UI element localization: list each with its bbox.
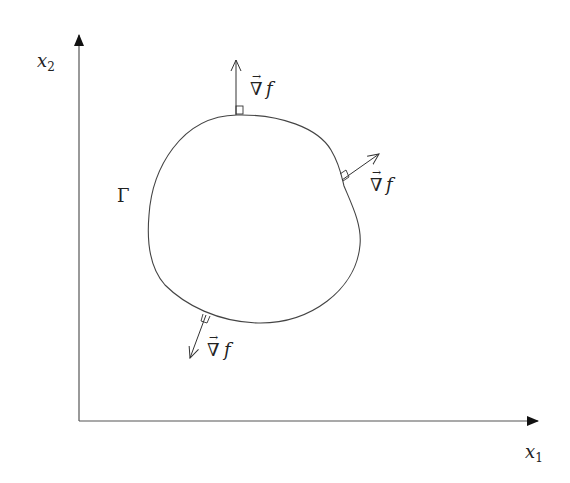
x-axis-label: x1: [525, 441, 543, 465]
svg-text:→: →: [209, 331, 218, 344]
svg-text:f: f: [222, 339, 234, 360]
svg-text:→: →: [372, 166, 381, 179]
gradient-label-top: ∇ → f: [250, 70, 276, 99]
svg-text:f: f: [264, 78, 276, 99]
svg-text:f: f: [384, 174, 396, 195]
right-angle-mark-top: [236, 106, 243, 114]
gradient-label-right: ∇ → f: [370, 166, 396, 195]
curve-label: Γ: [117, 185, 130, 206]
svg-text:→: →: [252, 70, 261, 83]
normal-vector-top: [236, 60, 243, 115]
boundary-curve: [148, 115, 360, 323]
y-axis-label: x2: [37, 50, 55, 74]
gradient-normal-diagram: x2 x1 Γ ∇ → f ∇ → f ∇ → f: [0, 0, 570, 483]
gradient-label-bottom: ∇ → f: [207, 331, 234, 360]
